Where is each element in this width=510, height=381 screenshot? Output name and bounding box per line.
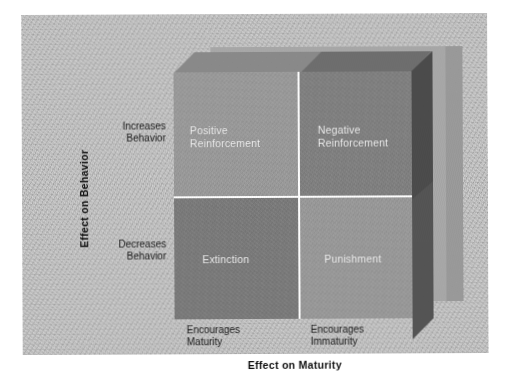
quadrant-positive-reinforcement[interactable]: Positive Reinforcement [174,72,299,197]
x-tick-encourages-maturity: Encourages Maturity [187,324,297,348]
cube-top-face [173,51,431,73]
quadrant-label-extinction: Extinction [202,253,249,266]
figure-plate: Positive Reinforcement Negative Reinforc… [21,13,488,355]
quadrant-punishment[interactable]: Punishment [300,197,413,318]
cube-right-face [411,51,433,339]
quadrant-label-positive-reinforcement: Positive Reinforcement [190,124,260,149]
quadrant-negative-reinforcement[interactable]: Negative Reinforcement [300,71,413,195]
quadrant-matrix: Positive Reinforcement Negative Reinforc… [174,71,413,319]
x-axis-title: Effect on Maturity [175,358,415,371]
y-tick-increases-behavior: Increases Behavior [88,120,166,144]
backdrop-slab-edge [445,46,463,301]
figure-root: Positive Reinforcement Negative Reinforc… [0,0,510,381]
y-axis-title: Effect on Behavior [78,119,91,279]
y-tick-decreases-behavior: Decreases Behavior [88,238,166,262]
x-tick-encourages-immaturity: Encourages Immaturity [311,323,431,348]
quadrant-label-negative-reinforcement: Negative Reinforcement [318,123,388,148]
quadrant-label-punishment: Punishment [324,252,381,265]
quadrant-extinction[interactable]: Extinction [174,198,299,320]
